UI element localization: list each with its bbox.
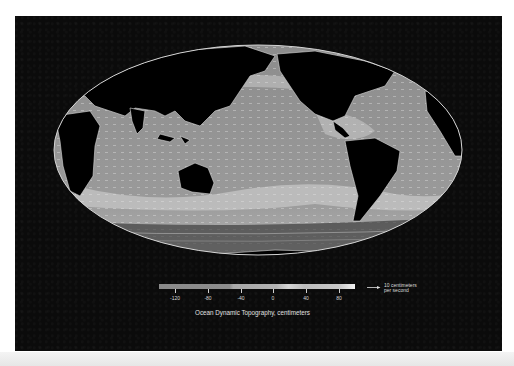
colorbar-tick [208, 289, 209, 293]
right-arrow-icon [367, 285, 381, 290]
colorbar-tick [175, 289, 176, 293]
page-bottom-strip [0, 352, 514, 366]
vector-legend-line2: per second [384, 288, 417, 293]
colorbar-tick [273, 289, 274, 293]
colorbar [159, 284, 355, 289]
colorbar-tick [306, 289, 307, 293]
colorbar-tick [339, 289, 340, 293]
colorbar-title: Ocean Dynamic Topography, centimeters [195, 309, 355, 316]
colorbar-tick-label: 40 [291, 295, 321, 301]
vector-legend: 10 centimeters per second [384, 283, 417, 294]
colorbar-tick-label: -120 [160, 295, 190, 301]
colorbar-tick-label: -40 [226, 295, 256, 301]
colorbar-tick [241, 289, 242, 293]
colorbar-tick-label: -80 [193, 295, 223, 301]
colorbar-tick-label: 0 [258, 295, 288, 301]
figure-panel: -120 -80 -40 0 40 80 Ocean Dynamic Topog… [15, 16, 502, 351]
colorbar-tick-label: 80 [324, 295, 354, 301]
